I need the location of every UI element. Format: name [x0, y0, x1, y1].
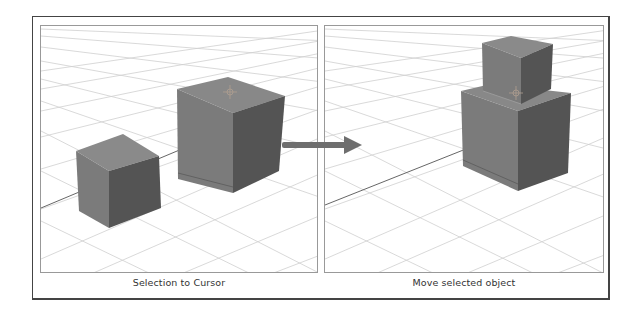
small-cube: [76, 134, 161, 228]
left-caption: Selection to Cursor: [40, 277, 318, 288]
right-caption: Move selected object: [324, 277, 604, 288]
left-3d-scene: [41, 26, 318, 273]
left-viewport-panel: [40, 25, 318, 273]
right-3d-scene: [325, 26, 604, 273]
right-arrow-icon: [282, 135, 364, 155]
right-viewport-panel: [324, 25, 604, 273]
